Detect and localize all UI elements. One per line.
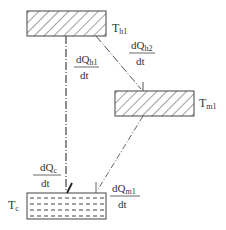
svg-text:dt: dt	[80, 69, 89, 81]
svg-text:dt: dt	[136, 55, 145, 67]
svg-text:dt: dt	[41, 177, 50, 189]
flow-h2-label: dQh2 dt	[129, 39, 155, 67]
svg-text:dQm1: dQm1	[112, 182, 136, 196]
flow-c-label: dQc dt	[33, 161, 61, 189]
hot-temp-label: Th1	[112, 21, 127, 36]
cold-reservoir	[27, 193, 106, 219]
flow-h1-label: dQh1 dt	[74, 53, 99, 81]
mid-reservoir	[115, 91, 194, 116]
mid-temp-label: Tm1	[199, 96, 217, 111]
svg-text:dQh1: dQh1	[76, 53, 97, 67]
hot-reservoir	[27, 11, 106, 36]
cold-temp-label: Tc	[8, 198, 19, 213]
flow-m1-label: dQm1 dt	[110, 182, 140, 210]
flow-m1-line	[97, 116, 143, 191]
svg-text:dQc: dQc	[40, 161, 57, 175]
heat-flow-diagram: Th1 Tm1 Tc dQh1 dt dQh2 dt dQc dt	[0, 0, 226, 230]
svg-text:dt: dt	[118, 198, 127, 210]
flow-c-arrow	[67, 183, 72, 193]
svg-text:dQh2: dQh2	[131, 39, 152, 53]
